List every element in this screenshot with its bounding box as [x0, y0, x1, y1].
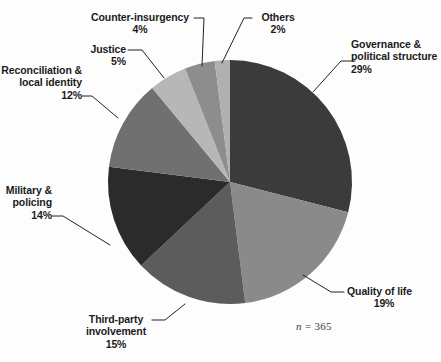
slice-label-line2: political structure	[351, 50, 437, 62]
slice-value-reconciliation-local-identity: 12%	[0, 89, 82, 101]
sample-size-annotation: n = 365	[296, 320, 332, 332]
leader-line-others	[222, 18, 252, 63]
slice-label-line2: local identity	[19, 76, 82, 88]
slice-label-line2: involvement	[86, 325, 146, 337]
slice-label-justice: Justice 5%	[58, 43, 126, 68]
leader-line-reconciliation	[82, 96, 118, 118]
slice-label-third-party-involvement: Third-party involvement 15%	[79, 313, 153, 350]
slice-value-military-policing: 14%	[0, 209, 52, 221]
slice-label-line1: Military &	[6, 184, 52, 196]
slice-label-line2: policing	[13, 196, 52, 208]
slice-value-others: 2%	[253, 23, 303, 35]
sample-size-equals: =	[305, 320, 312, 332]
slice-label-line1: Third-party	[89, 313, 143, 325]
leader-line-governance	[313, 61, 355, 92]
slice-value-quality-of-life: 19%	[347, 297, 421, 309]
leader-line-quality-of-life	[303, 275, 344, 292]
leader-line-justice	[128, 50, 164, 78]
slice-label-quality-of-life: Quality of life 19%	[347, 285, 421, 310]
slice-label-line1: Justice	[91, 43, 127, 55]
pie-slices	[108, 60, 352, 304]
sample-size-value: 365	[314, 320, 331, 332]
slice-label-others: Others 2%	[253, 11, 303, 36]
pie-chart-figure: Governance & political structure 29% Qua…	[0, 0, 441, 362]
sample-size-symbol: n	[296, 320, 302, 332]
slice-value-governance-political-structure: 29%	[351, 63, 437, 75]
slice-value-counter-insurgency: 4%	[88, 23, 192, 35]
slice-label-line1: Others	[261, 11, 294, 23]
slice-value-justice: 5%	[58, 55, 126, 67]
leader-line-military	[52, 216, 110, 245]
slice-label-line1: Counter-insurgency	[91, 11, 189, 23]
slice-label-counter-insurgency: Counter-insurgency 4%	[88, 11, 192, 36]
slice-label-line1: Governance &	[351, 38, 421, 50]
slice-label-line1: Quality of life	[347, 285, 412, 297]
slice-value-third-party-involvement: 15%	[79, 338, 153, 350]
slice-label-military-policing: Military & policing 14%	[0, 184, 52, 221]
leader-line-third-party	[152, 304, 185, 320]
slice-label-governance-political-structure: Governance & political structure 29%	[351, 38, 437, 75]
leader-line-counter-insurgency	[194, 18, 204, 66]
slice-label-reconciliation-local-identity: Reconciliation & local identity 12%	[0, 64, 82, 101]
